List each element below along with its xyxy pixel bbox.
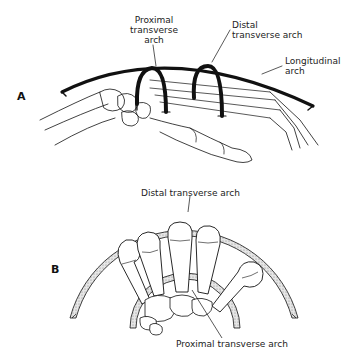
label-proximal-transverse-arch-a: Proximal transverse arch bbox=[126, 15, 182, 45]
panel-b-drawing bbox=[70, 196, 298, 338]
label-distal-transverse-arch-b: Distal transverse arch bbox=[141, 188, 240, 198]
label-line: arch bbox=[126, 35, 182, 45]
hand-arches-figure: A Proximal transverse arch Distal transv… bbox=[0, 0, 353, 360]
label-line: transverse arch bbox=[232, 30, 302, 40]
diagram-drawing bbox=[0, 0, 353, 360]
label-proximal-transverse-arch-b: Proximal transverse arch bbox=[176, 339, 288, 349]
label-line: Longitudinal bbox=[285, 56, 340, 66]
panel-a-letter: A bbox=[17, 90, 26, 103]
label-line: Proximal bbox=[126, 15, 182, 25]
panel-b-letter: B bbox=[51, 263, 59, 276]
panel-a-drawing bbox=[40, 30, 318, 163]
label-line: transverse bbox=[126, 25, 182, 35]
label-line: arch bbox=[285, 66, 340, 76]
label-distal-transverse-arch-a: Distal transverse arch bbox=[232, 20, 302, 40]
label-line: Distal bbox=[232, 20, 302, 30]
label-longitudinal-arch: Longitudinal arch bbox=[285, 56, 340, 76]
